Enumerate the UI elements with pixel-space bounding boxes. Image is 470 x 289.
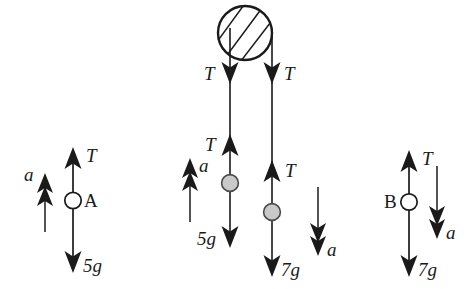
figure-canvas: T A 5g a bbox=[0, 0, 470, 289]
panel-left: T A 5g a bbox=[24, 145, 102, 276]
free-body-diagram: T A 5g a bbox=[0, 0, 470, 289]
particle-b-circle bbox=[401, 194, 417, 210]
left-string-weight-label: 5g bbox=[197, 228, 216, 249]
panel-middle: T T 5g a T bbox=[182, 0, 337, 280]
left-string-mass bbox=[222, 175, 239, 192]
particle-a-circle bbox=[65, 192, 81, 208]
right-string-tension-pulley-label: T bbox=[284, 63, 296, 84]
right-string-tension-mass-label: T bbox=[285, 160, 297, 181]
left-string-group: T T 5g a bbox=[182, 28, 239, 249]
left-string-tension-pulley-label: T bbox=[204, 63, 216, 84]
panel-right: T B 7g a bbox=[384, 148, 456, 280]
left-accel-label: a bbox=[24, 164, 34, 185]
pulley-rim bbox=[218, 6, 272, 60]
right-accel-label: a bbox=[446, 222, 456, 243]
right-string-mass bbox=[264, 204, 281, 221]
right-weight-label: 7g bbox=[418, 259, 437, 280]
right-tension-label: T bbox=[422, 148, 434, 169]
right-string-accel-label: a bbox=[327, 239, 337, 260]
left-string-accel-label: a bbox=[199, 155, 209, 176]
left-tension-label: T bbox=[86, 145, 98, 166]
right-string-group: T T 7g a bbox=[264, 28, 337, 280]
pulley bbox=[211, 0, 274, 70]
particle-b-label: B bbox=[384, 191, 397, 212]
left-string-tension-mass-label: T bbox=[205, 134, 217, 155]
left-weight-label: 5g bbox=[83, 255, 102, 276]
right-string-weight-label: 7g bbox=[281, 259, 300, 280]
particle-a-label: A bbox=[84, 190, 98, 211]
